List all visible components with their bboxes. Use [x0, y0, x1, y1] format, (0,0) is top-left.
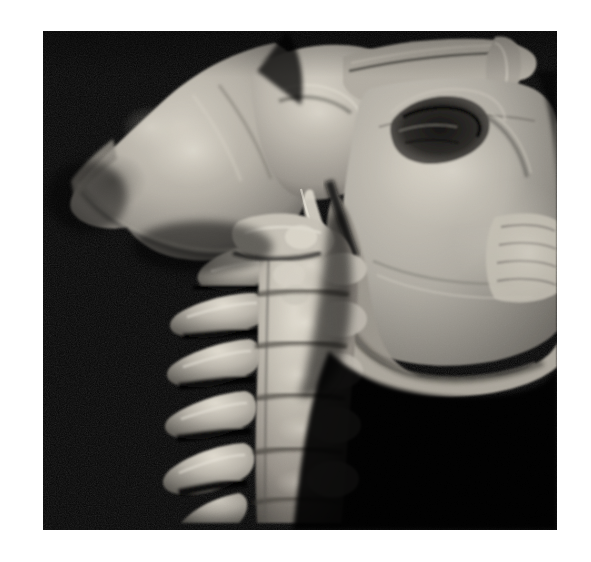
figure-page	[0, 0, 591, 562]
ct-volume-rendering-panel	[43, 31, 557, 530]
ct-volume-rendering-image	[43, 31, 557, 530]
image-grain-overlay	[43, 31, 557, 530]
